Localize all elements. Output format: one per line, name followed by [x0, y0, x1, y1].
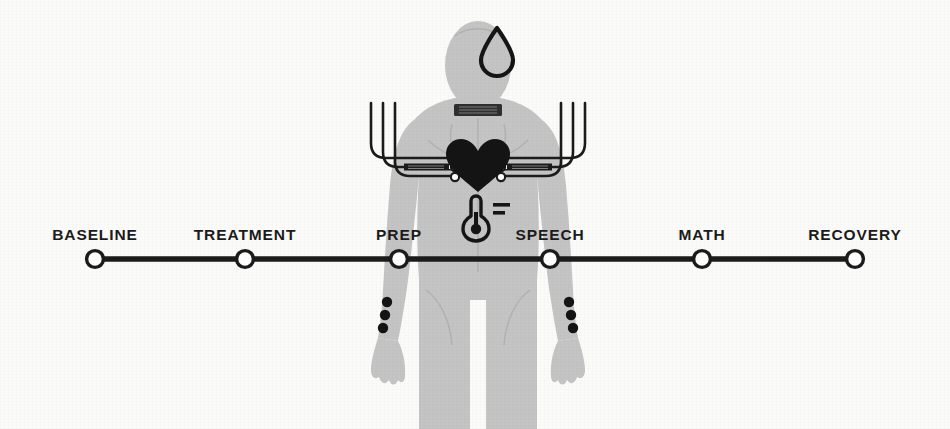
stress-protocol-figure: BASELINE TREATMENT PREP SPEECH MATH RECO… [0, 0, 950, 429]
timeline-label-recovery: RECOVERY [808, 226, 902, 244]
timeline-label-speech: SPEECH [515, 226, 584, 244]
timeline-label-baseline: BASELINE [52, 226, 138, 244]
timeline-label-prep: PREP [376, 226, 422, 244]
timeline-label-math: MATH [678, 226, 725, 244]
timeline-labels: BASELINE TREATMENT PREP SPEECH MATH RECO… [0, 0, 950, 429]
timeline-label-treatment: TREATMENT [194, 226, 297, 244]
